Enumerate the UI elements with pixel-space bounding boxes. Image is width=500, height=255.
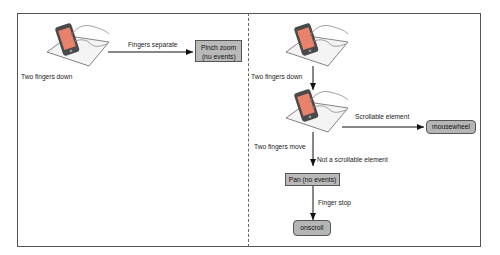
two-fingers-down-illustration — [47, 23, 109, 66]
fingers-separate-label: Fingers separate — [128, 40, 178, 49]
two-fingers-down-illustration-right — [286, 23, 348, 66]
two-fingers-move-label: Two fingers move — [254, 142, 306, 151]
pinch-zoom-line2: (nu events) — [202, 52, 236, 61]
not-scrollable-label: Not a scrollable element — [317, 155, 388, 164]
onscroll-text: onscroll — [300, 221, 323, 235]
mousewheel-box: mousewheel — [426, 120, 476, 134]
pinch-zoom-box: Pinch zoom (nu events) — [195, 40, 242, 62]
pinch-zoom-line1: Pinch zoom — [201, 43, 236, 52]
pan-text: Pan (no events) — [289, 174, 337, 185]
two-fingers-move-illustration — [286, 89, 348, 132]
start-state-label: Two fingers down — [21, 72, 72, 81]
onscroll-box: onscroll — [293, 220, 331, 236]
diagram-graphics — [0, 0, 500, 255]
scrollable-element-label: Scrollable element — [355, 112, 409, 121]
two-fingers-down-label: Two fingers down — [251, 72, 302, 81]
pan-box: Pan (no events) — [285, 173, 340, 186]
mousewheel-text: mousewheel — [432, 121, 470, 133]
finger-stop-label: Finger stop — [318, 198, 351, 207]
